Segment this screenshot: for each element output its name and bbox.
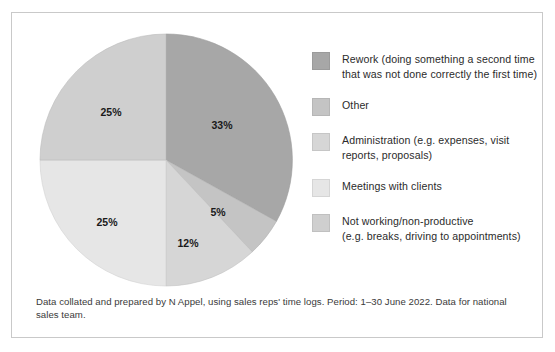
legend-item-meetings[interactable]: Meetings with clients [312, 178, 540, 197]
legend-label-line2: reports, proposals) [342, 149, 432, 161]
pie-label-meetings: 25% [96, 216, 118, 228]
legend-label-other: Other [342, 97, 369, 113]
pie-chart-svg: 33% 5% 12% 25% 25% [39, 33, 293, 287]
legend-swatch-icon [312, 179, 330, 197]
legend-swatch-icon [312, 98, 330, 116]
pie-label-other: 5% [210, 206, 226, 218]
legend-label-line1: Administration (e.g. expenses, visit [342, 134, 509, 146]
legend-label-line1: Other [342, 99, 369, 111]
legend-swatch-icon [312, 52, 330, 70]
pie-label-rework: 33% [211, 119, 233, 131]
legend-label-line2: (e.g. breaks, driving to appointments) [342, 230, 521, 242]
legend-swatch-icon [312, 214, 330, 232]
chart-figure: 33% 5% 12% 25% 25% Rework (doing somethi… [11, 12, 543, 338]
legend-label-line1: Meetings with clients [342, 180, 442, 192]
legend-item-rework[interactable]: Rework (doing something a second timetha… [312, 51, 540, 81]
legend-label-not-working: Not working/non-productive(e.g. breaks, … [342, 213, 521, 243]
legend-item-administration[interactable]: Administration (e.g. expenses, visitrepo… [312, 132, 540, 162]
legend-label-rework: Rework (doing something a second timetha… [342, 51, 537, 81]
pie-chart: 33% 5% 12% 25% 25% [39, 33, 293, 287]
legend-label-administration: Administration (e.g. expenses, visitrepo… [342, 132, 509, 162]
legend-item-other[interactable]: Other [312, 97, 540, 116]
chart-legend: Rework (doing something a second timetha… [312, 51, 540, 259]
legend-label-line1: Not working/non-productive [342, 215, 474, 227]
legend-label-meetings: Meetings with clients [342, 178, 442, 194]
legend-label-line1: Rework (doing something a second time [342, 53, 535, 65]
pie-label-not-working: 25% [100, 106, 122, 118]
legend-label-line2: that was not done correctly the first ti… [342, 68, 537, 80]
chart-source-note: Data collated and prepared by N Appel, u… [36, 295, 524, 321]
pie-slice-not-working[interactable] [40, 34, 166, 160]
pie-label-administration: 12% [177, 237, 199, 249]
legend-swatch-icon [312, 133, 330, 151]
legend-item-not-working[interactable]: Not working/non-productive(e.g. breaks, … [312, 213, 540, 243]
